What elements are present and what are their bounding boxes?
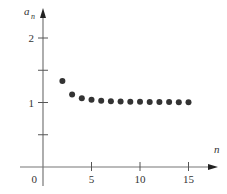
data-point (156, 99, 162, 105)
y-axis-arrow-icon (40, 8, 46, 18)
axis-ticks (38, 38, 189, 171)
data-point (147, 99, 153, 105)
data-point (176, 99, 182, 105)
data-point (108, 98, 114, 104)
data-point (166, 99, 172, 105)
data-point (127, 99, 133, 105)
sequence-plot: 51015120nan (0, 0, 227, 194)
data-point (79, 95, 85, 101)
data-points (59, 78, 191, 105)
x-axis-arrow-icon (208, 164, 218, 170)
x-tick-label: 15 (183, 173, 195, 185)
data-point (186, 99, 192, 105)
data-point (98, 98, 104, 104)
axis-labels: 51015120nan (24, 5, 220, 185)
x-axis-label: n (214, 143, 220, 155)
x-tick-label: 10 (135, 173, 147, 185)
origin-label: 0 (32, 173, 38, 185)
data-point (69, 91, 75, 97)
x-tick-label: 5 (89, 173, 95, 185)
data-point (59, 78, 65, 84)
data-point (118, 98, 124, 104)
y-tick-label: 1 (29, 97, 35, 109)
y-tick-label: 2 (29, 32, 35, 44)
data-point (137, 99, 143, 105)
data-point (89, 97, 95, 103)
y-axis-label-subscript: n (31, 12, 35, 21)
y-axis-label: a (24, 5, 30, 17)
